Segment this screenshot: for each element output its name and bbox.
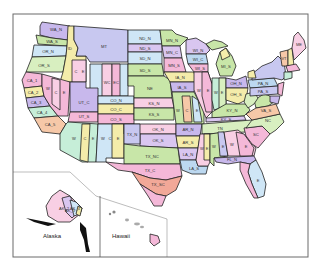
label-nm-e: E	[117, 136, 120, 141]
hawaii-label: Hawaii	[112, 233, 130, 239]
label-ks-n: KS_N	[149, 101, 160, 106]
label-sd-s: SD_S	[140, 68, 151, 73]
label-ca-5: CA_5	[45, 122, 56, 127]
label-va-s: VA_S	[261, 108, 272, 113]
label-az-c: C	[84, 136, 87, 141]
label-ne: NE	[147, 86, 153, 91]
label-la-n: LA_N	[183, 152, 193, 157]
us-zone-map: WA_N WA_S OR_N OR_S ID C E MT WC EC CA_1…	[0, 0, 317, 269]
label-ok-s: OK_S	[152, 138, 163, 143]
label-ut-c: UT_C	[79, 100, 90, 105]
label-nd-n: ND_N	[139, 36, 150, 41]
label-ms-e: E	[206, 146, 209, 151]
label-oh-n: OH_N	[230, 81, 242, 86]
state-washington: WA_N WA_S	[36, 22, 70, 46]
label-ga-e: E	[245, 144, 248, 149]
label-wi-n: WI_N	[193, 48, 203, 53]
label-nd-s: ND_S	[139, 46, 150, 51]
label-tn: TN	[217, 126, 223, 131]
label-id-c: C	[75, 69, 78, 74]
state-utah: UT_C UT_S	[68, 82, 98, 122]
state-kansas: KS_N KS_S	[134, 98, 174, 120]
label-tx-nc: TX_NC	[145, 154, 159, 159]
label-wi-s: WI_S	[195, 66, 205, 71]
label-id-e: E	[82, 69, 85, 74]
state-colorado: CO_N CO_C CO_S	[98, 96, 134, 124]
state-arkansas: AR_N AR_S	[176, 124, 202, 148]
label-id-n: ID	[68, 46, 72, 51]
label-mo-w: W	[176, 108, 180, 113]
label-tx-sc: TX_SC	[151, 182, 165, 187]
label-mn-s: MN_S	[168, 63, 180, 68]
label-ks-s: KS_S	[149, 112, 160, 117]
label-nc: NC	[265, 118, 271, 123]
label-az-w: W	[72, 136, 76, 141]
label-mn-n: MN_N	[166, 38, 178, 43]
label-wa-n: WA_N	[50, 27, 62, 32]
label-oh-s: OH_S	[230, 92, 242, 97]
label-ia-s: IA_S	[177, 85, 186, 90]
label-ak-4: AK_4	[70, 206, 81, 211]
label-vt: VT	[281, 56, 287, 61]
label-ky-s: KY_S	[221, 117, 232, 122]
label-ga-w: W	[230, 142, 234, 147]
label-wa-s: WA_S	[46, 39, 58, 44]
label-ca-3: CA_3	[31, 100, 42, 105]
label-nm-c: C	[109, 136, 112, 141]
label-mn-c: MN_C	[166, 50, 178, 55]
label-ar-s: AR_S	[183, 140, 194, 145]
state-nebraska: NE	[128, 76, 172, 98]
label-wi-c: WI_C	[193, 57, 203, 62]
state-pennsylvania: PA_N PA_S	[248, 78, 278, 96]
label-il-e: E	[207, 88, 210, 93]
label-pa-s: PA_S	[258, 89, 269, 94]
label-co-s: CO_S	[110, 117, 122, 122]
label-nv-e: E	[63, 90, 66, 95]
label-nv-c: C	[55, 90, 58, 95]
label-sd-n: SD_N	[139, 56, 150, 61]
label-wy-wc: WC	[104, 80, 111, 85]
label-co-c: CO_C	[110, 107, 122, 112]
label-mo-c: C	[186, 108, 189, 113]
label-mi-s: MI_S	[221, 64, 231, 69]
label-ca-1: CA_1	[27, 78, 38, 83]
label-ca-4: CA_4	[37, 110, 48, 115]
alaska-label: Alaska	[43, 233, 62, 239]
label-ia-n: IA_N	[175, 75, 184, 80]
label-nv-w: W	[46, 86, 50, 91]
label-il-w: W	[197, 88, 201, 93]
state-north-dakota: ND_N ND_S	[128, 30, 162, 52]
label-al-w: W	[212, 144, 216, 149]
label-nm-w: W	[101, 136, 105, 141]
label-la-s: LA_S	[189, 166, 199, 171]
label-al-e: E	[222, 144, 225, 149]
label-ok-n: OK_N	[152, 127, 163, 132]
label-pa-n: PA_N	[258, 81, 269, 86]
label-or-n: OR_N	[42, 49, 54, 54]
label-ky-n: KY_N	[227, 108, 238, 113]
label-az-e: E	[92, 136, 95, 141]
label-in-e: E	[221, 90, 224, 95]
state-south-dakota: SD_N SD_S	[128, 52, 164, 76]
label-in-w: W	[214, 90, 218, 95]
label-ut-s: UT_S	[79, 114, 90, 119]
label-ms-w: W	[200, 146, 204, 151]
label-mo-e: E	[196, 108, 199, 113]
label-or-s: OR_S	[38, 63, 50, 68]
label-ca-2: CA_2	[28, 90, 39, 95]
label-tx-n: TX_N	[127, 132, 138, 137]
label-co-n: CO_N	[110, 98, 122, 103]
state-new-mexico: W C E	[96, 124, 124, 162]
label-tx-c: TX_C	[145, 168, 156, 173]
label-fl-e: E	[257, 178, 260, 183]
label-ar-n: AR_N	[182, 127, 193, 132]
label-me: ME	[296, 42, 302, 47]
label-fl-n: FL_N	[227, 157, 237, 162]
label-wy-ec: EC	[113, 80, 119, 85]
label-mt: MT	[101, 44, 107, 49]
label-sc: SC	[253, 132, 259, 137]
